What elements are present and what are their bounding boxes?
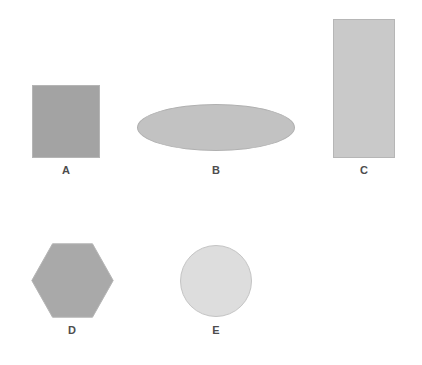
shape-hexagon-d	[31, 243, 114, 318]
shape-square-a	[32, 85, 100, 158]
shape-label-e: E	[182, 324, 250, 336]
shape-label-b: B	[182, 164, 250, 176]
shape-ellipse-b	[137, 104, 295, 151]
hexagon-icon	[31, 243, 114, 318]
shapes-figure: A B C D E	[0, 0, 422, 365]
shape-label-a: A	[32, 164, 100, 176]
shape-circle-e	[180, 245, 252, 317]
shape-label-c: C	[330, 164, 398, 176]
shape-label-d: D	[38, 324, 106, 336]
shape-rectangle-c	[333, 19, 395, 158]
